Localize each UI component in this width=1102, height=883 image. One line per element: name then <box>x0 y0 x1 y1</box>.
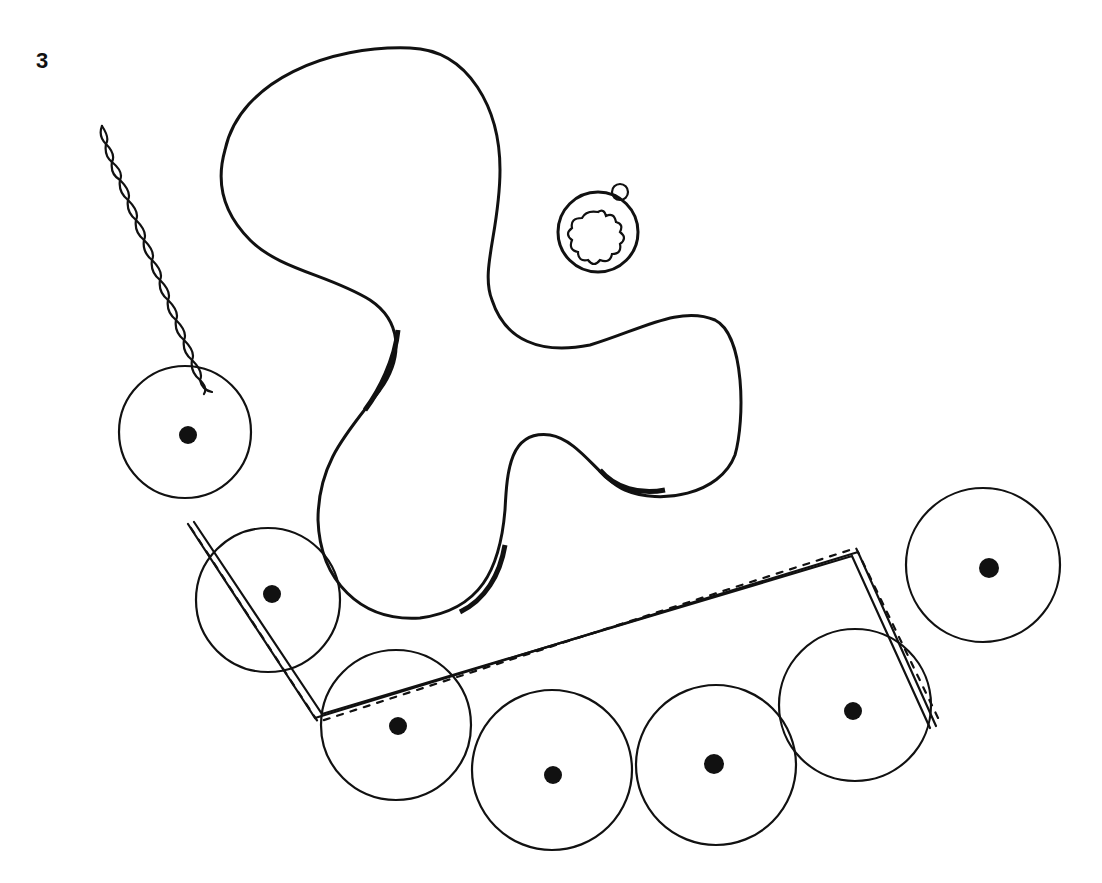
round-cell-2 <box>196 528 340 672</box>
small-lobed-organism <box>558 184 638 272</box>
nucleus <box>704 754 724 774</box>
round-cell-5 <box>636 685 796 845</box>
round-cell-3 <box>321 650 471 800</box>
large-amoeboid-cell <box>221 48 741 618</box>
round-cell-6 <box>779 629 931 781</box>
strand-upper-left <box>101 126 212 394</box>
strand-lower-chain <box>188 522 940 728</box>
diagram-canvas <box>0 0 1102 883</box>
nucleus <box>389 717 407 735</box>
nucleus <box>179 426 197 444</box>
round-cell-1 <box>119 366 251 498</box>
nucleus <box>844 702 862 720</box>
round-cell-4 <box>472 690 632 850</box>
nucleus <box>263 585 281 603</box>
nucleus <box>544 766 562 784</box>
nucleus <box>979 558 999 578</box>
round-cells <box>119 366 1060 850</box>
round-cell-7 <box>906 488 1060 642</box>
